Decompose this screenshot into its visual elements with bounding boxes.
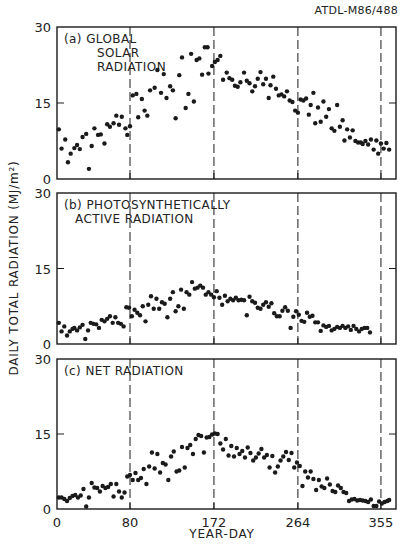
data-point bbox=[177, 73, 181, 77]
y-tick-label: 30 bbox=[34, 352, 51, 367]
data-point bbox=[274, 87, 278, 91]
data-point bbox=[155, 68, 159, 72]
data-point bbox=[109, 482, 113, 486]
data-point bbox=[267, 96, 271, 100]
data-point bbox=[59, 146, 63, 150]
data-point bbox=[206, 71, 210, 75]
data-point bbox=[111, 121, 115, 125]
data-point bbox=[217, 295, 221, 299]
data-point bbox=[258, 307, 262, 311]
data-point bbox=[245, 313, 249, 317]
data-point bbox=[221, 77, 225, 81]
data-point bbox=[201, 285, 205, 289]
data-point bbox=[273, 470, 277, 474]
data-point bbox=[242, 298, 246, 302]
data-point bbox=[142, 108, 146, 112]
data-point bbox=[230, 77, 234, 81]
data-point bbox=[363, 139, 367, 143]
data-point bbox=[89, 144, 93, 148]
x-tick-label: 355 bbox=[369, 515, 394, 530]
data-point bbox=[131, 478, 135, 482]
data-point bbox=[189, 52, 193, 56]
data-point bbox=[319, 329, 323, 333]
data-point bbox=[270, 454, 274, 458]
data-point bbox=[283, 305, 287, 309]
data-point bbox=[144, 482, 148, 486]
data-point bbox=[285, 89, 289, 93]
data-point bbox=[235, 85, 239, 89]
data-point bbox=[180, 55, 184, 59]
data-point bbox=[306, 475, 310, 479]
data-point bbox=[141, 304, 145, 308]
data-point bbox=[136, 115, 140, 119]
data-point bbox=[368, 330, 372, 334]
data-point bbox=[128, 124, 132, 128]
data-point bbox=[267, 305, 271, 309]
data-point bbox=[138, 313, 142, 317]
data-point bbox=[316, 320, 320, 324]
data-point bbox=[199, 434, 203, 438]
data-point bbox=[387, 498, 391, 502]
data-point bbox=[186, 92, 190, 96]
data-point bbox=[57, 127, 61, 131]
panel-title: (a) GLOBAL bbox=[64, 32, 137, 46]
y-tick-label: 0 bbox=[43, 172, 51, 187]
data-point bbox=[62, 324, 66, 328]
data-point bbox=[164, 96, 168, 100]
data-point bbox=[316, 105, 320, 109]
data-point bbox=[280, 309, 284, 313]
data-point bbox=[292, 465, 296, 469]
data-point bbox=[220, 303, 224, 307]
data-point bbox=[339, 486, 343, 490]
data-point bbox=[127, 306, 131, 310]
data-point bbox=[108, 314, 112, 318]
data-point bbox=[171, 88, 175, 92]
data-point bbox=[86, 328, 90, 332]
data-point bbox=[57, 321, 61, 325]
data-point bbox=[317, 478, 321, 482]
data-point bbox=[340, 118, 344, 122]
data-point bbox=[294, 309, 298, 313]
data-point bbox=[268, 83, 272, 87]
x-tick-label: 172 bbox=[202, 515, 227, 530]
data-point bbox=[302, 320, 306, 324]
data-point bbox=[149, 294, 153, 298]
data-point bbox=[79, 493, 83, 497]
data-point bbox=[133, 471, 137, 475]
panel-title: (b) PHOTOSYNTHETICALLY bbox=[64, 198, 231, 212]
data-point bbox=[286, 309, 290, 313]
data-point bbox=[321, 99, 325, 103]
x-tick-label: 0 bbox=[53, 515, 61, 530]
data-point bbox=[221, 447, 225, 451]
data-point bbox=[113, 315, 117, 319]
panel-photosynthetically-active-radiation: 01530(b) PHOTOSYNTHETICALLYACTIVE RADIAT… bbox=[34, 186, 396, 352]
data-point bbox=[366, 142, 370, 146]
data-point bbox=[276, 464, 280, 468]
data-point bbox=[163, 462, 167, 466]
x-axis-ticks: 080172264355 bbox=[53, 173, 393, 530]
data-point bbox=[298, 464, 302, 468]
data-point bbox=[212, 295, 216, 299]
data-point bbox=[92, 126, 96, 130]
data-point bbox=[166, 478, 170, 482]
data-point bbox=[78, 147, 82, 151]
data-point bbox=[238, 80, 242, 84]
data-point bbox=[65, 333, 69, 337]
data-point bbox=[169, 454, 173, 458]
data-point bbox=[173, 116, 177, 120]
data-point bbox=[183, 106, 187, 110]
data-point bbox=[247, 81, 251, 85]
data-point bbox=[304, 96, 308, 100]
data-point bbox=[114, 482, 118, 486]
data-point bbox=[130, 314, 134, 318]
data-point bbox=[248, 451, 252, 455]
data-point bbox=[145, 113, 149, 117]
data-point bbox=[253, 301, 257, 305]
data-point bbox=[125, 133, 129, 137]
data-point bbox=[271, 74, 275, 78]
y-tick-label: 0 bbox=[43, 337, 51, 352]
data-point bbox=[253, 84, 257, 88]
data-point bbox=[226, 453, 230, 457]
data-point bbox=[89, 481, 93, 485]
data-point bbox=[379, 141, 383, 145]
